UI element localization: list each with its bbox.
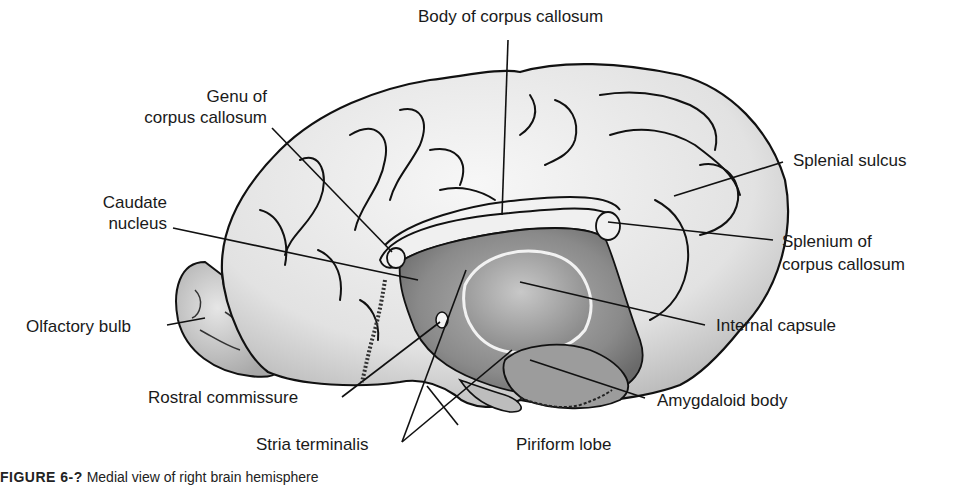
- internal-capsule-shape: [464, 251, 591, 353]
- label-splenial-sulcus: Splenial sulcus: [793, 150, 906, 171]
- label-splenium-line1: Splenium of: [782, 231, 872, 252]
- label-piriform-lobe: Piriform lobe: [516, 434, 611, 455]
- label-rostral-commissure: Rostral commissure: [148, 387, 298, 408]
- label-body-of-corpus-callosum: Body of corpus callosum: [418, 6, 603, 27]
- rostral-commissure-shape: [436, 312, 448, 328]
- label-olfactory-bulb: Olfactory bulb: [26, 316, 131, 337]
- figure-caption: FIGURE 6-? Medial view of right brain he…: [0, 469, 319, 485]
- label-splenium-line2: corpus callosum: [782, 254, 905, 275]
- label-stria-terminalis: Stria terminalis: [256, 434, 368, 455]
- label-genu-line1: Genu of: [112, 86, 267, 107]
- label-amygdaloid-body: Amygdaloid body: [657, 390, 787, 411]
- caption-prefix: FIGURE 6-?: [0, 469, 83, 485]
- label-genu-line2: corpus callosum: [112, 107, 267, 128]
- label-caudate-line2: nucleus: [60, 213, 167, 234]
- caption-text: Medial view of right brain hemisphere: [87, 469, 319, 485]
- label-internal-capsule: Internal capsule: [716, 315, 836, 336]
- label-caudate-line1: Caudate: [60, 192, 167, 213]
